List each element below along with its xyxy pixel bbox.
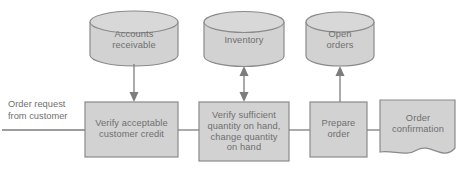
output-order-confirmation-shape — [380, 100, 455, 153]
flow-arrow-prepare-order-to-open-orders — [336, 66, 345, 102]
flow-arrow-inventory-to-verify-quantity — [240, 66, 249, 102]
process-verify-credit-shape — [85, 102, 178, 157]
data-flow-diagram: Order request from customer Accounts rec… — [0, 0, 459, 171]
data-store-accounts-receivable-shape — [90, 11, 178, 66]
process-prepare-order-shape — [310, 102, 367, 157]
data-store-inventory-shape — [204, 12, 284, 67]
flow-arrow-accounts-receivable-to-verify-credit — [130, 64, 139, 102]
process-verify-quantity-shape — [199, 102, 289, 161]
external-entity-order-request-label: Order request from customer — [8, 99, 94, 122]
diagram-canvas — [0, 0, 459, 171]
data-store-open-orders-shape — [306, 12, 374, 66]
